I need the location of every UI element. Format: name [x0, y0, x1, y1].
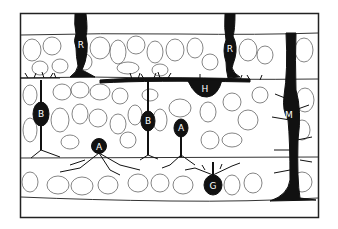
label-rod-2: R [227, 44, 233, 54]
label-bipolar-1: B [38, 109, 44, 119]
label-bipolar-2: B [145, 116, 151, 126]
label-horizontal: H [202, 84, 209, 94]
retina-diagram: R R B B H A A G M [0, 0, 338, 229]
label-amacrine-1: A [96, 142, 103, 152]
label-rod-1: R [78, 40, 84, 50]
diagram-frame [21, 14, 319, 218]
label-ganglion: G [210, 181, 217, 191]
label-muller: M [285, 110, 293, 120]
label-amacrine-2: A [178, 123, 185, 133]
